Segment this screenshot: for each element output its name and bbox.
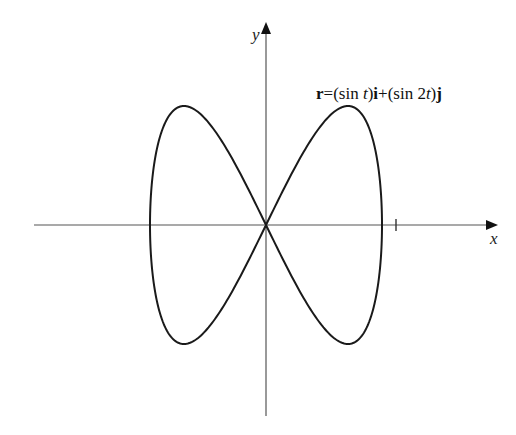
y-axis-label: y <box>250 25 260 44</box>
eq-equals: = <box>324 84 334 103</box>
eq-plus: + <box>378 84 388 103</box>
y-axis-arrow-icon <box>261 22 271 34</box>
parametric-plot: y x r=(sin t)i+(sin 2t)j <box>0 0 516 435</box>
x-axis-label: x <box>489 229 498 248</box>
eq-part1-open: (sin <box>333 84 363 103</box>
eq-part2-open: (sin 2 <box>388 84 426 103</box>
curve-equation: r=(sin t)i+(sin 2t)j <box>316 84 442 103</box>
eq-j: j <box>435 84 442 103</box>
